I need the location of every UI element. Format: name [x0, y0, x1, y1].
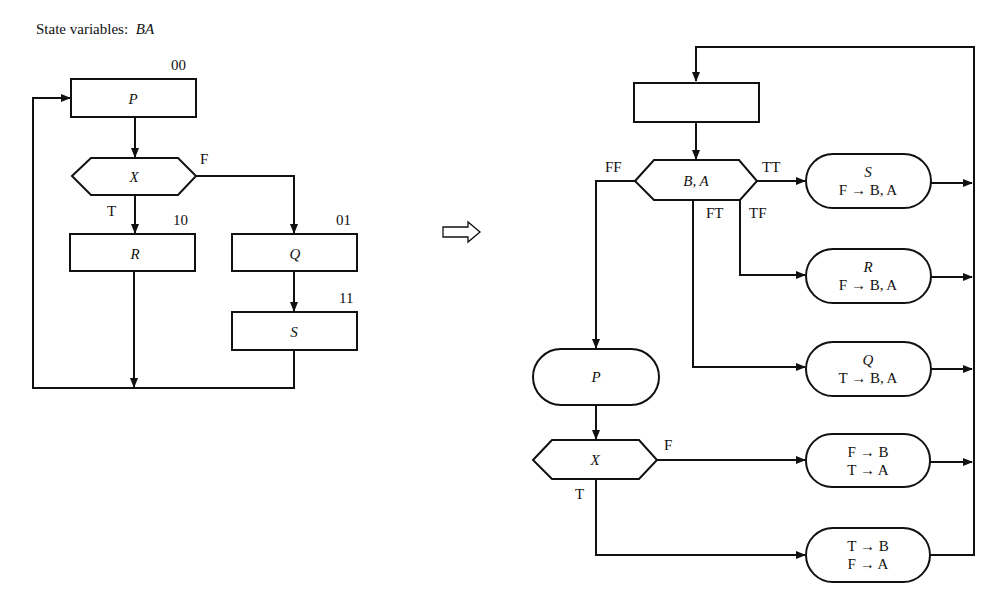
branch-tf-label: TF	[749, 206, 767, 221]
code-q: 01	[336, 213, 351, 228]
left-x-false-label: F	[200, 152, 208, 167]
box-q-text: Q T → B, A	[839, 351, 898, 387]
code-p: 00	[171, 58, 186, 73]
transform-arrow-icon	[443, 222, 480, 242]
left-x-true-label: T	[107, 204, 116, 219]
x-true-label: T	[575, 487, 584, 502]
branch-ft-label: FT	[706, 206, 724, 221]
decision-ba-label: B, A	[683, 172, 709, 190]
box-r-text: R F → B, A	[839, 258, 897, 294]
label-x: X	[129, 168, 138, 186]
branch-ff-label: FF	[605, 160, 622, 175]
diagram-canvas	[0, 0, 1008, 610]
label-q: Q	[290, 245, 301, 263]
box-tf-text: T → B F → A	[847, 537, 888, 573]
right-arrow-x-t	[596, 479, 805, 555]
code-s: 11	[339, 291, 353, 306]
right-arrow-ft	[693, 200, 805, 367]
right-return-line	[930, 186, 974, 555]
branch-tt-label: TT	[762, 160, 780, 175]
right-empty-box	[634, 83, 759, 122]
left-loop-s	[33, 98, 294, 388]
state-variables-value: BA	[136, 21, 154, 37]
label-r: R	[130, 245, 139, 263]
right-feedback-loop	[696, 47, 974, 186]
decision-x-label: X	[590, 451, 599, 469]
state-variables-label: State variables: BA	[36, 22, 154, 37]
box-s-text: S F → B, A	[839, 163, 897, 199]
right-arrow-ff	[596, 181, 635, 348]
box-ft-text: F → B T → A	[847, 443, 888, 479]
label-s: S	[290, 323, 298, 341]
x-false-label: F	[664, 438, 672, 453]
code-r: 10	[173, 213, 188, 228]
box-p-label: P	[591, 368, 600, 386]
label-p: P	[128, 90, 137, 108]
left-arrow-x-q	[196, 176, 294, 233]
